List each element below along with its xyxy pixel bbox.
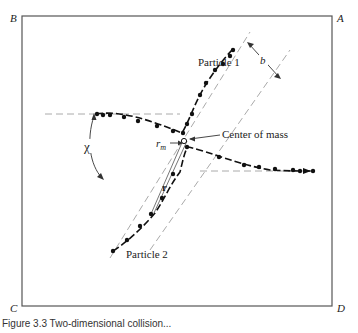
corner-label-a: A <box>336 12 344 24</box>
relative-vector <box>151 138 187 214</box>
scattering-diagram: B A C D Center of mass <box>0 0 358 333</box>
chi-arrowhead-bottom <box>97 173 104 180</box>
particle2-label: Particle 2 <box>126 248 168 260</box>
figure-caption: Figure 3.3 Two-dimensional collision... <box>2 318 171 329</box>
deflection-angle-label: χ <box>83 139 90 154</box>
particle2-arrowhead <box>303 168 311 174</box>
particle2-trajectory <box>113 147 315 251</box>
corner-label-b: B <box>10 12 17 24</box>
corner-label-c: C <box>10 302 18 314</box>
rm-label: rm <box>156 137 166 152</box>
impact-parameter-label: b <box>260 54 266 66</box>
cm-pointer-arrowhead <box>189 137 195 142</box>
particle1-label: Particle 1 <box>198 56 240 68</box>
r-label: r <box>162 181 167 193</box>
particle2-points <box>111 145 315 253</box>
corner-label-d: D <box>336 302 345 314</box>
b-arrowhead-top <box>247 42 254 48</box>
b-arrowhead-bottom <box>274 73 281 79</box>
frame-box <box>22 16 332 306</box>
center-of-mass-label: Center of mass <box>222 128 288 140</box>
